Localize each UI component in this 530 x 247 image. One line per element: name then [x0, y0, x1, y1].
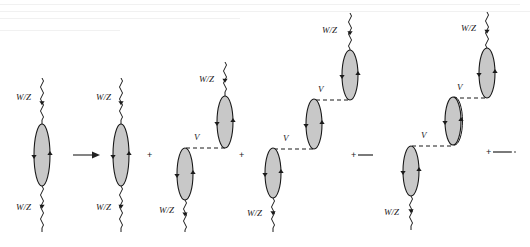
plus-sign: +: [351, 150, 356, 160]
boson-label: W/Z: [461, 23, 477, 33]
interaction-label: V: [318, 84, 325, 94]
plus-sign: +: [239, 150, 244, 160]
diagram-term-1: W/ZW/Z: [96, 78, 132, 232]
boson-label: W/Z: [247, 208, 263, 218]
boson-wavy-line: [120, 78, 123, 124]
boson-wavy-line: [120, 186, 123, 232]
boson-label: W/Z: [96, 92, 112, 102]
boson-wavy-line: [41, 78, 44, 124]
boson-label: W/Z: [16, 202, 32, 212]
interaction-label: V: [421, 130, 428, 140]
feynman-diagram-series: W/ZW/ZW/ZW/ZW/ZW/ZVW/ZW/ZVVW/ZW/ZVV ++++: [0, 0, 530, 247]
boson-wavy-line: [41, 186, 44, 232]
plus-sign: +: [147, 150, 152, 160]
interaction-label: V: [194, 132, 201, 142]
boson-label: W/Z: [96, 202, 112, 212]
operators: ++++: [73, 147, 516, 160]
boson-label: W/Z: [159, 205, 175, 215]
arrow-right-icon: [92, 152, 100, 159]
boson-label: W/Z: [16, 92, 32, 102]
diagram-terms: W/ZW/ZW/ZW/ZW/ZW/ZVW/ZW/ZVVW/ZW/ZVV: [16, 12, 498, 232]
interaction-label: V: [283, 133, 290, 143]
boson-label: W/Z: [384, 207, 400, 217]
diagram-term-3: W/ZW/ZVV: [247, 13, 361, 232]
boson-label: W/Z: [199, 74, 215, 84]
diagram-lhs: W/ZW/Z: [16, 78, 53, 232]
plus-sign: +: [486, 147, 491, 157]
boson-label: W/Z: [322, 25, 338, 35]
interaction-label: V: [457, 82, 464, 92]
ellipsis-dot: [514, 151, 516, 153]
diagram-term-4: W/ZW/ZVV: [384, 12, 498, 230]
diagram-term-2: W/ZW/ZV: [159, 62, 236, 232]
